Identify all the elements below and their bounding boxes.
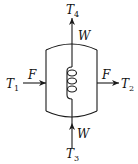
label-t1: T1 (6, 77, 19, 93)
label-f-in: F (27, 68, 37, 82)
heating-coil-icon (68, 70, 77, 92)
label-w-out: W (78, 29, 92, 43)
label-w-in: W (77, 127, 91, 141)
label-t3: T3 (66, 147, 79, 163)
coolant-line (67, 18, 77, 148)
label-t4: T4 (66, 3, 79, 19)
label-t2: T2 (121, 77, 134, 93)
tank-diagram: T4 W T1 F F T2 W T3 (0, 0, 138, 164)
label-f-out: F (101, 68, 111, 82)
